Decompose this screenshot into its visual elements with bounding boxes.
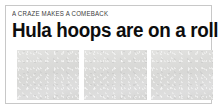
photo-placeholder-3[interactable] (151, 50, 213, 100)
article-teaser-card[interactable]: A CRAZE MAKES A COMEBACK Hula hoops are … (5, 5, 212, 104)
article-kicker: A CRAZE MAKES A COMEBACK (12, 10, 195, 18)
photo-placeholder-1[interactable] (17, 50, 79, 100)
photo-placeholder-2[interactable] (84, 50, 147, 100)
teaser-text-block: A CRAZE MAKES A COMEBACK Hula hoops are … (12, 10, 209, 40)
page-canvas: A CRAZE MAKES A COMEBACK Hula hoops are … (0, 0, 218, 109)
photo-placeholder-row (17, 50, 213, 100)
article-headline[interactable]: Hula hoops are on a roll (12, 21, 202, 40)
